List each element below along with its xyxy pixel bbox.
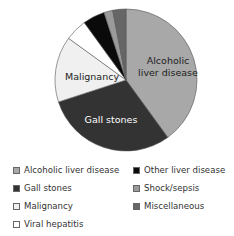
slice-label-gall-stones: Gall stones <box>85 114 138 125</box>
legend-swatch <box>133 167 140 174</box>
legend-item-viral-hepatitis: Viral hepatitis <box>13 219 83 229</box>
legend-label: Gall stones <box>24 183 72 193</box>
legend-swatch <box>13 167 20 174</box>
legend-swatch <box>13 203 20 210</box>
legend-item-gall-stones: Gall stones <box>13 183 72 193</box>
legend-item-other-liver-disease: Other liver disease <box>133 165 225 175</box>
legend-swatch <box>133 185 140 192</box>
legend-item-shock-sepsis: Shock/sepsis <box>133 183 199 193</box>
legend-item-miscellaneous: Miscellaneous <box>133 201 204 211</box>
legend-item-alcoholic-liver-disease: Alcoholic liver disease <box>13 165 119 175</box>
pie-chart: Alcoholicliver diseaseGall stonesMaligna… <box>0 0 234 160</box>
legend-label: Alcoholic liver disease <box>24 165 119 175</box>
slice-label-alcoholic-liver-disease: Alcoholicliver disease <box>138 55 198 78</box>
legend-label: Viral hepatitis <box>24 219 83 229</box>
legend-label: Shock/sepsis <box>144 183 199 193</box>
legend-label: Other liver disease <box>144 165 225 175</box>
legend-item-malignancy: Malignancy <box>13 201 73 211</box>
legend-swatch <box>133 203 140 210</box>
slice-label-malignancy: Malignancy <box>65 71 119 82</box>
legend-label: Miscellaneous <box>144 201 204 211</box>
legend-label: Malignancy <box>24 201 73 211</box>
legend-swatch <box>13 221 20 228</box>
legend-swatch <box>13 185 20 192</box>
